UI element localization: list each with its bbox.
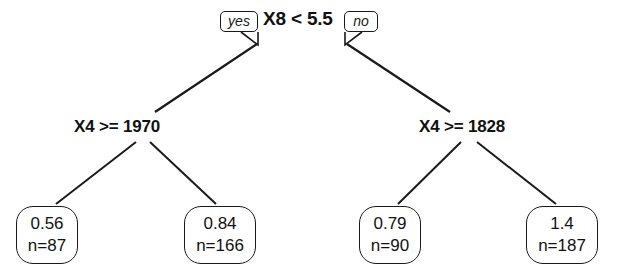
edge-leftsplit-leaf1 — [150, 142, 216, 204]
edge-rightsplit-leaf3 — [477, 142, 556, 204]
leaf-count: n=87 — [28, 235, 66, 257]
no-branch-text: no — [345, 12, 377, 30]
yes-branch-label: yes — [220, 11, 258, 32]
leaf-value: 0.79 — [373, 213, 406, 235]
leaf-node: 0.84 n=166 — [184, 206, 256, 264]
leaf-node: 0.56 n=87 — [16, 206, 78, 264]
leaf-node: 0.79 n=90 — [359, 206, 421, 264]
yes-callout-tail — [241, 32, 258, 45]
root-split-label: X8 < 5.5 — [263, 8, 333, 30]
edge-leftsplit-leaf0 — [56, 142, 136, 204]
no-callout-tail — [345, 32, 362, 45]
leaf-value: 1.4 — [550, 213, 574, 235]
yes-branch-text: yes — [221, 12, 257, 30]
leaf-value: 0.56 — [30, 213, 63, 235]
right-split-label: X4 >= 1828 — [419, 117, 505, 137]
leaf-count: n=90 — [371, 235, 409, 257]
leaf-count: n=166 — [196, 235, 244, 257]
edge-rightsplit-leaf2 — [398, 142, 461, 204]
leaf-node: 1.4 n=187 — [526, 206, 598, 264]
edge-root-right — [347, 44, 450, 112]
leaf-value: 0.84 — [203, 213, 236, 235]
left-split-label: X4 >= 1970 — [74, 117, 160, 137]
no-branch-label: no — [344, 11, 378, 32]
edge-root-left — [155, 44, 257, 112]
leaf-count: n=187 — [538, 235, 586, 257]
decision-tree-diagram: X8 < 5.5 yes no X4 >= 1970 X4 >= 1828 0.… — [0, 0, 620, 276]
